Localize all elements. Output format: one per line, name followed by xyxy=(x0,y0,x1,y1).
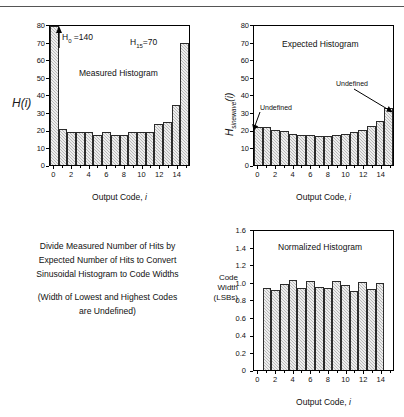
ytick-label: 1.2 xyxy=(224,262,246,270)
xtick-mark xyxy=(310,371,311,374)
annotation-h15-sub: 15 xyxy=(136,43,143,49)
bar xyxy=(332,281,341,370)
ytick-mark xyxy=(250,318,253,319)
xtick-label: 12 xyxy=(354,376,372,384)
ytick-mark xyxy=(250,371,253,372)
ytick-mark xyxy=(250,283,253,284)
ytick-mark xyxy=(250,353,253,354)
annotation-h15: H15=70 xyxy=(130,37,157,49)
xtick-mark xyxy=(346,371,347,374)
caption-line-2: Expected Number of Hits to Convert xyxy=(10,254,205,268)
bar xyxy=(263,288,272,370)
ytick-label: 0.6 xyxy=(224,315,246,323)
bar xyxy=(376,283,385,370)
xtick-mark xyxy=(284,371,285,373)
xtick-label: 2 xyxy=(266,376,284,384)
xtick-label: 0 xyxy=(248,376,266,384)
bar xyxy=(367,289,376,370)
bar xyxy=(350,291,359,370)
xtick-mark xyxy=(363,371,364,374)
xtick-label: 4 xyxy=(284,376,302,384)
ytick-label: 0.2 xyxy=(224,350,246,358)
axis-label-x-normalized-var: i xyxy=(349,397,351,407)
xtick-mark xyxy=(390,371,391,373)
xtick-mark xyxy=(337,371,338,373)
xtick-mark xyxy=(319,371,320,373)
caption-spacer xyxy=(10,282,205,291)
bar xyxy=(324,288,333,370)
axis-label-x-expected-var: i xyxy=(349,192,351,202)
bar xyxy=(271,290,280,370)
caption-line-1: Divide Measured Number of Hits by xyxy=(10,240,205,254)
axis-label-x-measured-var: i xyxy=(145,192,147,202)
xtick-mark xyxy=(381,371,382,374)
xtick-mark xyxy=(372,371,373,373)
chart-measured-histogram: H(i) 80 70 60 50 40 30 20 10 0 024681012… xyxy=(0,8,202,208)
ytick-label: 0.4 xyxy=(224,332,246,340)
xtick-mark xyxy=(275,371,276,374)
ytick-label: 1.6 xyxy=(224,227,246,235)
annotation-h0-arrow xyxy=(0,8,202,208)
ytick-label: 1.0 xyxy=(224,280,246,288)
xtick-mark xyxy=(328,371,329,374)
top-divider-rule xyxy=(0,6,404,7)
xtick-label: 8 xyxy=(319,376,337,384)
caption-line-3: Sinusoidal Histogram to Code Widths xyxy=(10,268,205,282)
ytick-mark xyxy=(250,230,253,231)
xtick-mark xyxy=(257,371,258,374)
chart-normalized-histogram: Code Width (LSBs) 1.6 1.4 1.2 1.0 0.8 0.… xyxy=(202,213,404,417)
bar xyxy=(289,280,298,370)
ytick-mark xyxy=(250,265,253,266)
ytick-label: 0 xyxy=(224,367,246,375)
xtick-label: 6 xyxy=(301,376,319,384)
bar xyxy=(358,282,367,370)
xtick-label: 10 xyxy=(337,376,355,384)
ytick-label: 1.4 xyxy=(224,245,246,253)
ytick-label: 0.8 xyxy=(224,297,246,305)
annotation-undefined-arrows xyxy=(202,8,404,208)
ytick-mark xyxy=(250,336,253,337)
caption-line-5: are Undefined) xyxy=(10,305,205,319)
bar xyxy=(280,284,289,370)
bar xyxy=(341,285,350,370)
xtick-mark xyxy=(354,371,355,373)
caption-line-4: (Width of Lowest and Highest Codes xyxy=(10,291,205,305)
caption-text-block: Divide Measured Number of Hits by Expect… xyxy=(10,240,205,319)
chart-expected-histogram: Hsinewave(i) 80 70 60 50 40 30 20 10 0 0… xyxy=(202,8,404,208)
axis-label-x-measured: Output Code, i xyxy=(49,192,190,202)
bar xyxy=(315,287,324,370)
xtick-mark xyxy=(266,371,267,373)
xtick-mark xyxy=(293,371,294,374)
xtick-mark xyxy=(301,371,302,373)
axis-label-x-expected: Output Code, i xyxy=(253,192,394,202)
ytick-mark xyxy=(250,300,253,301)
xtick-label: 14 xyxy=(372,376,390,384)
axis-label-x-normalized: Output Code, i xyxy=(253,397,394,407)
annotation-h15-rest: =70 xyxy=(143,37,157,47)
chart-title-normalized: Normalized Histogram xyxy=(278,242,362,252)
ytick-mark xyxy=(250,248,253,249)
bar xyxy=(306,281,315,370)
bar xyxy=(297,288,306,370)
